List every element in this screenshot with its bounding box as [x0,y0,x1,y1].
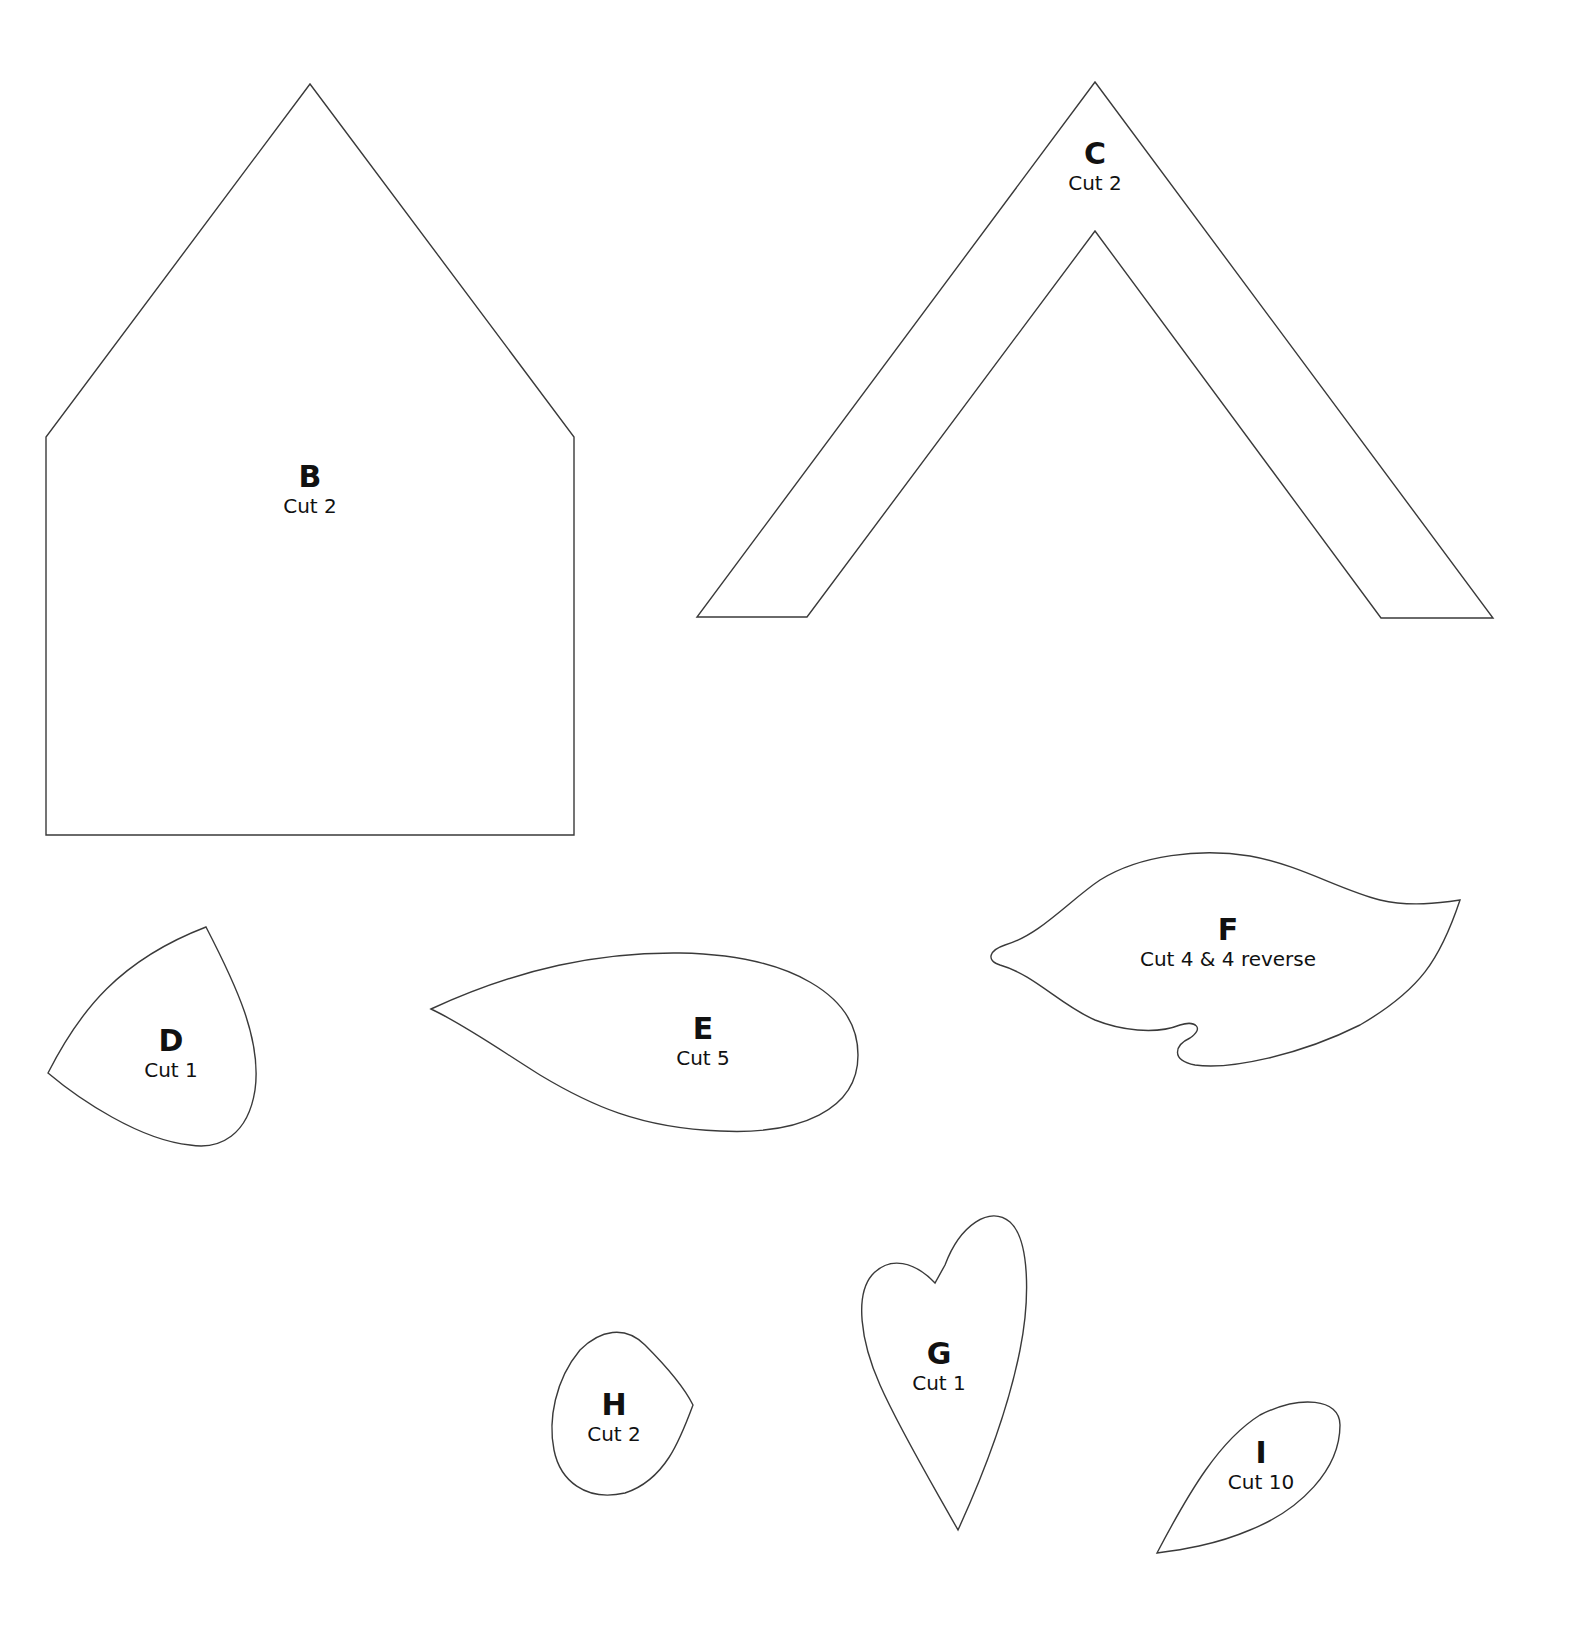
piece-c-label: C Cut 2 [1068,137,1122,195]
piece-b-letter: B [283,460,337,494]
piece-i-letter: I [1228,1436,1294,1470]
piece-f-label: F Cut 4 & 4 reverse [1140,913,1316,971]
piece-d-letter: D [144,1024,198,1058]
piece-c-instruction: Cut 2 [1068,171,1122,195]
piece-g-letter: G [912,1337,966,1371]
piece-b-instruction: Cut 2 [283,494,337,518]
piece-e-instruction: Cut 5 [676,1046,730,1070]
piece-b-label: B Cut 2 [283,460,337,518]
piece-h-instruction: Cut 2 [587,1422,641,1446]
piece-d-label: D Cut 1 [144,1024,198,1082]
piece-i-instruction: Cut 10 [1228,1470,1294,1494]
piece-f-letter: F [1140,913,1316,947]
piece-d-instruction: Cut 1 [144,1058,198,1082]
piece-h-letter: H [587,1388,641,1422]
piece-h-label: H Cut 2 [587,1388,641,1446]
piece-c-letter: C [1068,137,1122,171]
piece-e-label: E Cut 5 [676,1012,730,1070]
pattern-sheet [0,0,1586,1628]
piece-f-instruction: Cut 4 & 4 reverse [1140,947,1316,971]
piece-g-instruction: Cut 1 [912,1371,966,1395]
piece-e-outline [431,953,858,1131]
piece-e-letter: E [676,1012,730,1046]
piece-g-label: G Cut 1 [912,1337,966,1395]
piece-i-label: I Cut 10 [1228,1436,1294,1494]
